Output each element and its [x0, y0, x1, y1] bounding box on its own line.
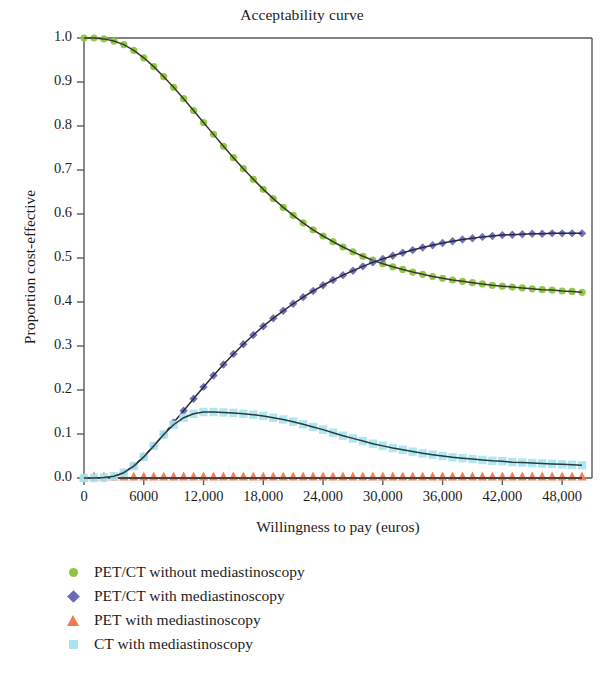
- series-layer: [79, 34, 586, 482]
- y-tick-label: 0.4: [32, 292, 72, 309]
- y-tick-label: 0.7: [32, 160, 72, 177]
- y-tick-label: 0.3: [32, 336, 72, 353]
- series-3: [80, 408, 586, 482]
- tick-marks: [77, 38, 562, 485]
- triangle-marker: [62, 610, 84, 630]
- acceptability-curve-figure: Acceptability curve Proportion cost-effe…: [0, 0, 604, 677]
- y-tick-label: 0.5: [32, 248, 72, 265]
- series-0: [80, 34, 585, 296]
- square-marker: [62, 634, 84, 654]
- legend-item-2[interactable]: PET with mediastinoscopy: [62, 608, 542, 632]
- plot-area: [0, 0, 604, 520]
- legend-item-0[interactable]: PET/CT without mediastinoscopy: [62, 560, 542, 584]
- chart-legend: PET/CT without mediastinoscopyPET/CT wit…: [62, 560, 542, 656]
- diamond-marker: [62, 586, 84, 606]
- y-tick-label: 0.6: [32, 204, 72, 221]
- y-tick-label: 0.1: [32, 424, 72, 441]
- series-2: [79, 472, 586, 481]
- circle-marker: [62, 562, 84, 582]
- legend-label: PET with mediastinoscopy: [94, 611, 261, 629]
- y-tick-label: 0.2: [32, 380, 72, 397]
- x-axis-label: Willingness to pay (euros): [84, 518, 592, 536]
- legend-label: CT with mediastinoscopy: [94, 635, 253, 653]
- legend-item-3[interactable]: CT with mediastinoscopy: [62, 632, 542, 656]
- legend-label: PET/CT without mediastinoscopy: [94, 563, 305, 581]
- y-tick-label: 0.9: [32, 72, 72, 89]
- y-tick-label: 1.0: [32, 28, 72, 45]
- plot-frame: [84, 38, 592, 478]
- y-tick-label: 0.0: [32, 468, 72, 485]
- legend-item-1[interactable]: PET/CT with mediastinoscopy: [62, 584, 542, 608]
- legend-label: PET/CT with mediastinoscopy: [94, 587, 285, 605]
- y-tick-label: 0.8: [32, 116, 72, 133]
- x-tick-label: 48,000: [522, 488, 602, 505]
